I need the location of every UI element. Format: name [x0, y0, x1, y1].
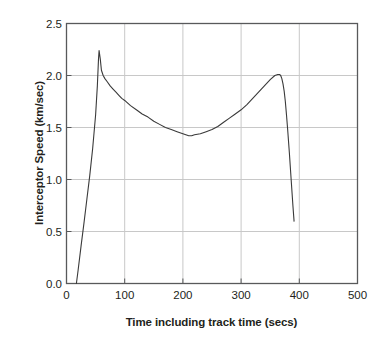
- x-tick-label: 400: [290, 289, 309, 301]
- x-tick-label: 100: [115, 289, 134, 301]
- x-tick-label: 0: [63, 289, 69, 301]
- data-series-line: [76, 51, 294, 284]
- x-tick-label: 200: [173, 289, 192, 301]
- x-axis-tick-labels: 0100200300400500: [0, 289, 387, 305]
- x-tick-label: 300: [232, 289, 251, 301]
- x-axis-title: Time including track time (secs): [66, 316, 357, 328]
- grid-lines: [67, 24, 358, 284]
- plot-frame: [67, 24, 358, 284]
- x-tick-label: 500: [348, 289, 367, 301]
- tick-marks: [67, 24, 358, 284]
- chart-figure: Interceptor Speed (km/sec) 0.00.51.01.52…: [0, 0, 387, 343]
